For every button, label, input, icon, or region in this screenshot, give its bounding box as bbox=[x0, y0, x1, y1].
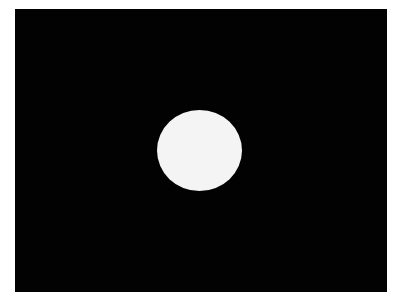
white-circle bbox=[157, 110, 242, 191]
